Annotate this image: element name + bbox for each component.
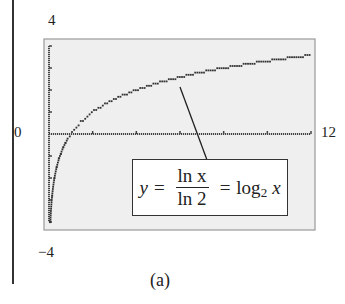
eq-fraction: ln x ln 2	[176, 166, 209, 209]
eq-log-base: 2	[261, 185, 268, 201]
eq-equals-1: =	[154, 177, 165, 199]
eq-denominator: ln 2	[178, 188, 207, 209]
eq-lhs: y	[139, 177, 147, 199]
equation-label-box: y = ln x ln 2 = log2 x	[132, 159, 288, 216]
eq-numerator: ln x	[176, 166, 209, 188]
plot-area	[0, 0, 345, 304]
eq-log: log	[236, 177, 260, 199]
eq-arg: x	[272, 177, 280, 199]
eq-equals-2: =	[220, 177, 231, 199]
figure-caption: (a)	[150, 270, 170, 291]
